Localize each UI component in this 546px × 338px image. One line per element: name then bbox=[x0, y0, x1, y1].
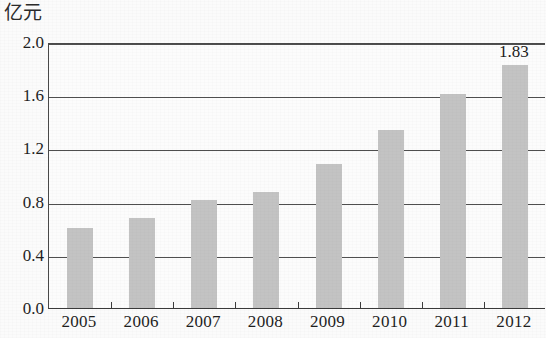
chart-figure: 亿元 0.00.40.81.21.62.0 1.83 2005200620072… bbox=[0, 0, 546, 338]
y-axis-tick-label: 2.0 bbox=[0, 33, 44, 53]
x-axis-tick-label: 2010 bbox=[372, 312, 407, 332]
bar bbox=[191, 200, 217, 308]
x-axis-tick-label: 2011 bbox=[435, 312, 470, 332]
bar-value-label: 1.83 bbox=[499, 42, 529, 62]
plot-area bbox=[48, 43, 545, 309]
gridline bbox=[49, 44, 545, 45]
x-axis-tick-label: 2008 bbox=[248, 312, 283, 332]
bar bbox=[378, 130, 404, 308]
x-axis-tick-label: 2012 bbox=[496, 312, 531, 332]
gridline bbox=[49, 204, 545, 205]
x-axis-tick-mark bbox=[484, 302, 485, 308]
bar bbox=[253, 192, 279, 308]
gridline bbox=[49, 150, 545, 151]
gridline bbox=[49, 97, 545, 98]
x-axis-tick-label-group: 20052006200720082009201020112012 bbox=[48, 312, 545, 338]
x-axis-tick-mark bbox=[173, 302, 174, 308]
x-axis-tick-mark bbox=[298, 302, 299, 308]
y-axis-tick-label: 0.8 bbox=[0, 193, 44, 213]
y-axis-tick-label: 1.6 bbox=[0, 86, 44, 106]
y-axis-tick-label: 1.2 bbox=[0, 139, 44, 159]
x-axis-tick-mark bbox=[360, 302, 361, 308]
bar bbox=[129, 218, 155, 308]
y-axis-tick-label: 0.0 bbox=[0, 299, 44, 319]
gridline bbox=[49, 257, 545, 258]
y-axis-tick-label: 0.4 bbox=[0, 246, 44, 266]
bar bbox=[502, 65, 528, 308]
x-axis-tick-label: 2006 bbox=[124, 312, 159, 332]
x-axis-tick-mark bbox=[422, 302, 423, 308]
bar bbox=[67, 228, 93, 308]
y-axis-tick-label-group: 0.00.40.81.21.62.0 bbox=[0, 0, 44, 338]
bar bbox=[316, 164, 342, 308]
x-axis-tick-mark bbox=[111, 302, 112, 308]
bar bbox=[440, 94, 466, 308]
x-axis-tick-label: 2009 bbox=[310, 312, 345, 332]
x-axis-tick-label: 2005 bbox=[61, 312, 96, 332]
x-axis-tick-mark bbox=[235, 302, 236, 308]
x-axis-tick-label: 2007 bbox=[186, 312, 221, 332]
